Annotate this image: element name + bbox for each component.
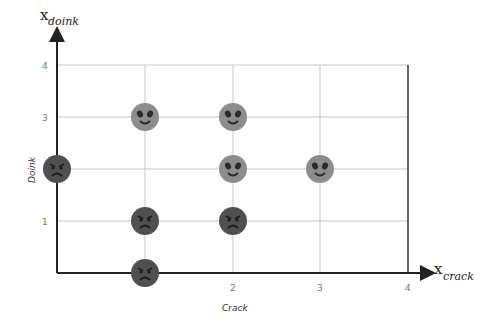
x-axis-title: Crack: [222, 303, 248, 313]
x-axis-variable: x crack: [434, 260, 474, 283]
happy-alien-icon: [306, 155, 334, 183]
angry-face-icon: [219, 207, 247, 235]
angry-face-icon: [43, 155, 71, 183]
happy-alien-icon: [131, 103, 159, 131]
y-tick-1: 1: [42, 217, 48, 227]
y-tick-3: 3: [42, 113, 48, 123]
x-tick-2: 2: [230, 283, 236, 293]
angry-face-icon: [131, 207, 159, 235]
happy-alien-icon: [219, 155, 247, 183]
x-tick-3: 3: [317, 283, 323, 293]
y-var-subscript: doink: [48, 15, 79, 28]
x-var-symbol: x: [434, 260, 443, 278]
x-tick-4: 4: [405, 283, 411, 293]
y-axis-title: Doink: [27, 156, 37, 183]
scatter-plot: 2 3 4 4 3 1 Crack Doink x doink x crack: [0, 0, 490, 328]
x-var-subscript: crack: [443, 270, 474, 283]
angry-face-icon: [131, 259, 159, 287]
y-tick-4: 4: [42, 61, 48, 71]
happy-alien-icon: [219, 103, 247, 131]
y-axis-variable: x doink: [40, 6, 79, 28]
